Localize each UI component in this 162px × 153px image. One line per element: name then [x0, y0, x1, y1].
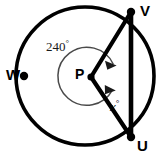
center-label-P: P	[75, 67, 84, 81]
circle-geometry-figure: V U W P 240° x°	[0, 0, 162, 153]
reflex-arc-arrowhead-upper	[105, 61, 117, 70]
reflex-angle-label: 240°	[46, 39, 69, 53]
point-V-dot	[127, 8, 135, 16]
degree-symbol-reflex: °	[66, 38, 70, 48]
center-point-P-dot	[87, 73, 94, 80]
interior-angle-label: x°	[110, 99, 119, 113]
point-label-U: U	[137, 138, 148, 153]
point-label-V: V	[140, 3, 150, 18]
point-U-dot	[127, 133, 135, 141]
reflex-angle-value: 240	[46, 39, 66, 54]
degree-symbol-interior: °	[116, 98, 120, 108]
point-W-dot	[20, 72, 28, 80]
point-label-W: W	[6, 67, 20, 82]
